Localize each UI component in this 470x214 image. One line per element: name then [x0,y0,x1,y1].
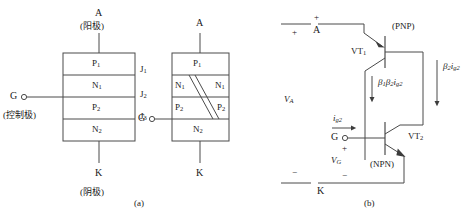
circuit-voltage-gate-label: VG [331,156,341,166]
circuit-beta12-current-label: β1β2ig2 [378,78,402,88]
circuit-plus-anode: + [314,13,319,22]
thyristor-figure: A (阳极) G (控制极) K (阴极) P1 N1 P2 N2 J1 J2 … [0,0,470,214]
circuit-minus-gate: − [342,171,347,180]
split-gate-label: G [138,113,145,123]
structure-layer-n1: N1 [92,81,102,91]
split-layer-n2: N2 [193,125,203,135]
structure-anode-cn-label: (阳极) [80,22,104,31]
structure-gate-cn-label: (控制极) [3,111,36,120]
diagram-linework [0,0,470,214]
structure-junction-j2: J2 [140,90,147,100]
circuit-voltage-anode-label: VA [284,95,293,105]
structure-layer-p2: P2 [92,103,100,113]
circuit-npn-type-label: (NPN) [370,160,394,169]
circuit-transistor1-label: VT1 [351,47,366,57]
structure-layer-n2: N2 [92,125,102,135]
circuit-gate-current-label: ig2 [333,114,342,124]
circuit-gate-label: G [331,132,338,142]
circuit-minus-left: − [292,168,297,177]
split-anode-label: A [196,18,203,28]
structure-gate-label: G [10,91,17,101]
circuit-transistor2-label: VT2 [408,132,423,142]
circuit-plus-gate: + [342,144,347,153]
structure-anode-label: A [95,8,102,18]
split-layer-n1-left: N1 [175,81,185,91]
structure-cathode-cn-label: (阴极) [80,188,104,197]
circuit-cathode-label: K [317,186,324,196]
split-layer-p1: P1 [193,59,201,69]
split-cathode-label: K [196,168,203,178]
circuit-anode-label: A [313,25,320,35]
caption-b: (b) [364,199,375,208]
structure-symbol [21,33,135,163]
split-layer-p2-right: P2 [217,103,225,113]
split-layer-p2-left: P2 [175,103,183,113]
circuit-beta2-current-label: β2ig2 [443,62,460,72]
structure-junction-j1: J1 [140,65,147,75]
circuit-pnp-type-label: (PNP) [392,22,415,31]
split-structure-symbol [149,33,229,163]
structure-cathode-label: K [95,168,102,178]
split-layer-n1-right: N1 [215,81,225,91]
caption-a: (a) [134,199,144,208]
circuit-plus-left: + [292,28,297,37]
structure-layer-p1: P1 [92,59,100,69]
